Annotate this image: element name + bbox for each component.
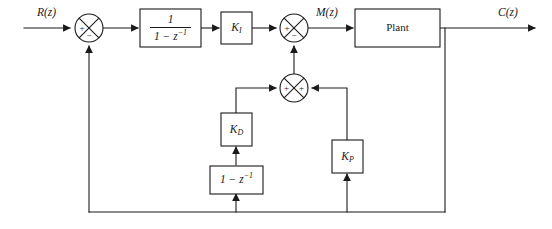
input-signal-label: R(z) xyxy=(36,6,56,19)
wire-kd-to-summer3 xyxy=(236,88,276,113)
wire-kp-to-summer3 xyxy=(312,88,347,140)
pd-summing-junction[interactable]: + + xyxy=(280,74,308,102)
summer1-sign-bottom: − xyxy=(86,30,91,40)
kp-gain-block[interactable]: KP xyxy=(332,140,363,173)
block-diagram-svg: 1 1 − z−1 KI Plant KD KP 1 − z−1 xyxy=(0,0,552,229)
summer1-sign-left: + xyxy=(79,23,84,33)
summer2-sign-left: + xyxy=(284,23,289,33)
kd-gain-block[interactable]: KD xyxy=(221,113,252,146)
ki-gain-block[interactable]: KI xyxy=(221,12,252,44)
integrator-block[interactable]: 1 1 − z−1 xyxy=(140,9,201,47)
plant-label: Plant xyxy=(386,21,409,33)
summer3-sign-right: + xyxy=(299,83,304,93)
control-summing-junction[interactable]: + − xyxy=(280,14,308,42)
integrator-numerator: 1 xyxy=(168,13,174,25)
summer3-sign-left: + xyxy=(284,83,289,93)
output-signal-label: C(z) xyxy=(498,6,518,19)
manipulated-signal-label: M(z) xyxy=(315,6,338,19)
block-diagram-canvas: 1 1 − z−1 KI Plant KD KP 1 − z−1 xyxy=(0,0,552,229)
differencer-block[interactable]: 1 − z−1 xyxy=(210,166,263,194)
error-summing-junction[interactable]: + − xyxy=(75,14,103,42)
summer2-sign-bottom: − xyxy=(291,30,296,40)
plant-block[interactable]: Plant xyxy=(355,9,440,47)
